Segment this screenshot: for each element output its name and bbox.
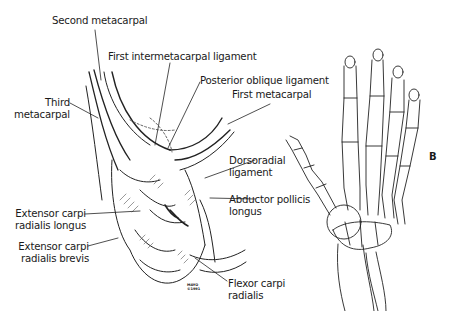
label-line: Extensor carpi [18,241,89,253]
artist-signature: MAYO ©1991 [187,283,200,291]
label-line: radialis longus [15,220,86,232]
label-line: Dorsoradial [229,155,285,167]
label-first-intermetacarpal-ligament: First intermetacarpal ligament [108,51,257,63]
label-flexor-carpi-radialis: Flexor carpi radialis [228,278,285,302]
label-line: longus [229,206,310,218]
label-extensor-carpi-radialis-longus: Extensor carpi radialis longus [15,208,86,232]
label-line: Flexor carpi [228,278,285,290]
label-second-metacarpal: Second metacarpal [52,15,147,27]
label-line: Extensor carpi [15,208,86,220]
signature-line: ©1991 [187,287,200,291]
label-line: radialis [228,290,285,302]
label-line: Abductor pollicis [229,194,310,206]
label-line: radialis brevis [18,253,89,265]
label-extensor-carpi-radialis-brevis: Extensor carpi radialis brevis [18,241,89,265]
label-first-metacarpal: First metacarpal [232,89,311,101]
label-third-metacarpal: Third metacarpal [14,97,70,121]
label-dorsoradial-ligament: Dorsoradial ligament [229,155,285,179]
label-line: metacarpal [14,109,70,121]
label-abductor-pollicis-longus: Abductor pollicis longus [229,194,310,218]
label-posterior-oblique-ligament: Posterior oblique ligament [200,75,329,87]
label-line: ligament [229,167,285,179]
panel-label-b: B [429,151,437,162]
label-line: Third [14,97,70,109]
